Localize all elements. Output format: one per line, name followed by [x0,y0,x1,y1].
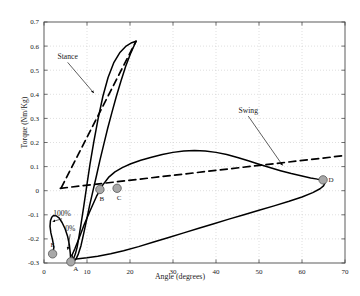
svg-text:D: D [329,176,334,184]
svg-text:0%: 0% [65,224,76,233]
svg-text:20: 20 [127,268,135,276]
svg-text:-0.1: -0.1 [28,211,40,219]
svg-text:C: C [117,194,122,202]
svg-text:Swing: Swing [239,106,259,115]
svg-text:Stance: Stance [58,52,79,61]
svg-text:60: 60 [299,268,307,276]
svg-text:50: 50 [256,268,264,276]
data-markers: ABCDE [48,176,333,273]
svg-text:70: 70 [342,268,350,276]
marker-a: A [67,258,79,273]
svg-text:0.5: 0.5 [30,67,39,75]
svg-text:0.3: 0.3 [30,115,39,123]
svg-text:10: 10 [84,268,92,276]
svg-text:B: B [100,195,105,203]
svg-text:0.7: 0.7 [30,18,39,26]
svg-text:0.2: 0.2 [30,139,39,147]
marker-d: D [319,176,334,184]
svg-text:0: 0 [36,187,40,195]
grid-lines [44,22,345,263]
data-series [50,41,345,262]
svg-text:0.6: 0.6 [30,43,39,51]
figure-chart: Torque (Nm/Kg) Angle (degrees) StanceSwi… [0,0,360,296]
marker-e: E [48,241,56,258]
svg-text:100%: 100% [53,209,71,218]
plot-canvas: StanceSwing100%0% ABCDE 010203040506070-… [0,0,360,296]
svg-text:0.4: 0.4 [30,91,39,99]
svg-text:40: 40 [213,268,221,276]
svg-text:0: 0 [42,268,46,276]
svg-text:-0.2: -0.2 [28,235,40,243]
svg-text:A: A [73,265,78,273]
svg-text:E: E [50,241,54,249]
svg-text:-0.3: -0.3 [28,259,40,267]
svg-text:0.1: 0.1 [30,163,39,171]
svg-text:30: 30 [170,268,178,276]
marker-c: C [113,184,122,202]
